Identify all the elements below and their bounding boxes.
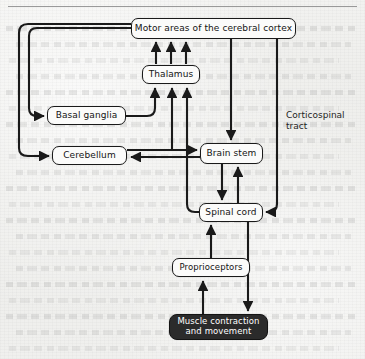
motor-control-diagram: Motor areas of the cerebral cortex Thala…: [0, 0, 365, 359]
node-proprioceptors: Proprioceptors: [172, 258, 250, 277]
edge-cortex-to-cerebellum: [19, 24, 131, 156]
corticospinal-tract-label: Corticospinal tract: [286, 110, 345, 133]
node-motor-cortex: Motor areas of the cerebral cortex: [131, 18, 296, 39]
edge-basal-ganglia-to-thalamus: [126, 88, 155, 116]
edge-corticospinal-tract: [266, 39, 277, 212]
node-brain-stem: Brain stem: [200, 143, 263, 164]
node-cerebellum: Cerebellum: [52, 146, 127, 165]
node-thalamus: Thalamus: [142, 65, 200, 84]
node-muscle-contraction: Muscle contraction and movement: [169, 314, 268, 340]
edge-cortex-to-basal-ganglia: [29, 28, 131, 116]
diagram-connectors: [0, 0, 365, 359]
node-basal-ganglia: Basal ganglia: [47, 106, 126, 125]
node-spinal-cord: Spinal cord: [199, 203, 263, 222]
